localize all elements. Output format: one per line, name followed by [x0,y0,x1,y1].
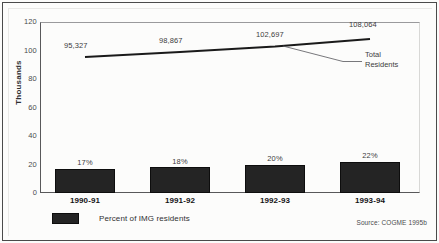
chart-canvas: Thousands 0 20 40 60 80 100 120 95,327 9… [0,0,439,243]
y-axis-ticks: 0 20 40 60 80 100 120 [8,22,37,193]
total-residents-annotation: Total Residents [365,50,398,69]
line-value-label-1993-94: 108,064 [349,20,377,29]
y-tick-label-40: 40 [11,132,37,140]
bar-1991-92 [150,167,210,193]
total-residents-annotation-line1: Total [365,50,398,60]
source-note: Source: COGME 1995b [356,219,427,226]
category-label-1993-94: 1993-94 [340,196,400,205]
y-tick-label-20: 20 [11,161,37,169]
bar-1993-94 [340,162,400,193]
bar-value-label-1992-93: 20% [245,154,305,163]
y-tick-label-80: 80 [11,75,37,83]
bar-value-label-1993-94: 22% [340,151,400,160]
bar-1990-91 [55,169,115,193]
category-label-1990-91: 1990-91 [55,196,115,205]
category-label-1991-92: 1991-92 [150,196,210,205]
legend-swatch-img-residents [52,213,79,224]
line-value-label-1992-93: 102,697 [256,30,284,39]
y-tick-label-120: 120 [11,18,37,26]
line-value-label-1991-92: 98,867 [159,36,183,45]
figure-container: Thousands 0 20 40 60 80 100 120 95,327 9… [0,0,439,243]
y-tick-label-0: 0 [11,189,37,197]
total-residents-annotation-line2: Residents [365,60,398,70]
category-label-1992-93: 1992-93 [245,196,305,205]
y-tick-label-100: 100 [11,47,37,55]
legend-label-img-residents: Percent of IMG residents [99,214,190,223]
chart-legend: Percent of IMG residents [52,213,190,224]
bar-1992-93 [245,165,305,194]
y-tick-label-60: 60 [11,104,37,112]
bar-value-label-1990-91: 17% [55,158,115,167]
bar-value-label-1991-92: 18% [150,157,210,166]
line-value-label-1990-91: 95,327 [64,41,88,50]
